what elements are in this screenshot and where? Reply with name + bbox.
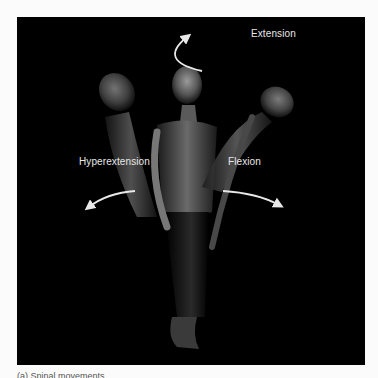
spinal-movement-figure — [17, 17, 365, 365]
photo-panel: Extension Hyperextension Flexion — [17, 17, 365, 365]
extension-arrow-icon — [175, 37, 202, 71]
hyperextension-pose — [92, 66, 157, 217]
flexion-arrow-icon — [223, 191, 279, 205]
hyperextension-label: Hyperextension — [79, 156, 150, 167]
extension-label: Extension — [251, 28, 296, 39]
neutral-pose — [155, 66, 217, 349]
figure-caption: (a) Spinal movements — [17, 371, 105, 378]
flexion-label: Flexion — [228, 156, 261, 167]
